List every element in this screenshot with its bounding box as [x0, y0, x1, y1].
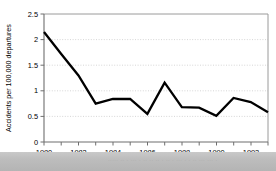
plot-background — [44, 14, 268, 142]
y-tick-label-2.5: 2.5 — [28, 10, 38, 19]
y-axis-title: Accidents per 100,000 departures — [4, 24, 13, 132]
y-tick-label-0.5: 0.5 — [28, 112, 38, 121]
y-tick-label-2: 2 — [34, 35, 38, 44]
bottom-gray-band: ..... .. . ... . .. .. .. . .. . ... . .… — [0, 152, 276, 171]
chart-canvas: 0 0.5 1 1.5 2 2.5 — [0, 0, 276, 152]
y-axis-tick-labels: 0 0.5 1 1.5 2 2.5 — [28, 10, 38, 147]
y-tick-label-0: 0 — [34, 138, 38, 147]
line-chart-figure: 0 0.5 1 1.5 2 2.5 — [0, 0, 276, 152]
y-tick-label-1.5: 1.5 — [28, 61, 38, 70]
y-tick-label-1: 1 — [34, 86, 38, 95]
bottom-band-faint-text: ..... .. . ... . .. .. .. . .. . ... . .… — [108, 156, 268, 162]
chart-page: 0 0.5 1 1.5 2 2.5 — [0, 0, 276, 171]
